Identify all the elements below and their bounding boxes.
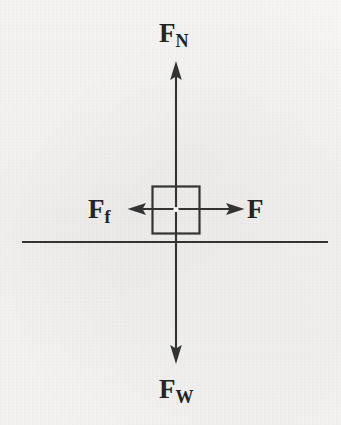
force-arrow-normal [170, 61, 182, 210]
force-label-normal: FN [159, 20, 189, 47]
force-symbol-weight: F [159, 374, 176, 404]
force-label-applied: F [247, 196, 264, 223]
force-symbol-normal: F [159, 18, 176, 48]
force-label-weight: FW [159, 376, 194, 403]
force-symbol-applied: F [247, 194, 264, 224]
block-center-dot [173, 207, 178, 212]
free-body-diagram: FN FW Ff F [0, 0, 341, 425]
force-symbol-friction: F [88, 194, 105, 224]
force-subscript-weight: W [176, 387, 194, 407]
force-subscript-normal: N [176, 31, 189, 51]
force-subscript-friction: f [105, 207, 111, 227]
diagram-canvas [0, 0, 341, 425]
force-arrow-applied [176, 203, 245, 215]
force-label-friction: Ff [88, 196, 111, 223]
